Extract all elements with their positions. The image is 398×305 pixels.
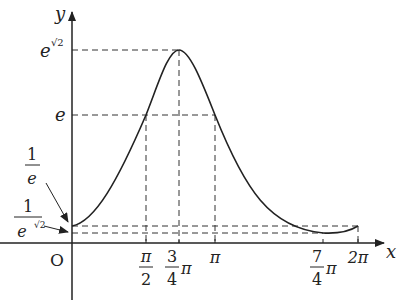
svg-text:4: 4 xyxy=(167,270,177,289)
y-tick-e: e xyxy=(55,104,66,125)
svg-text:π: π xyxy=(325,259,337,278)
svg-text:1: 1 xyxy=(23,197,33,216)
guide-lines xyxy=(72,50,358,243)
svg-text:√2: √2 xyxy=(34,220,45,230)
svg-text:4: 4 xyxy=(312,270,322,289)
function-graph: y x O e √2 e 1 e 1 e √2 π 2 3 4 π π 7 4 … xyxy=(0,0,398,305)
svg-text:7: 7 xyxy=(312,247,322,266)
y-tick-1-over-e: 1 e xyxy=(25,145,40,188)
arrow-1-over-e-sqrt2 xyxy=(44,226,68,232)
x-tick-7-4-pi: 7 4 π xyxy=(310,247,337,289)
x-tick-2pi: 2π xyxy=(347,248,369,267)
svg-text:π: π xyxy=(180,259,192,278)
x-tick-3-4-pi: 3 4 π xyxy=(165,247,192,289)
arrow-1-over-e xyxy=(46,183,68,222)
y-axis-label: y xyxy=(54,3,66,24)
svg-text:1: 1 xyxy=(27,145,37,164)
x-axis-label: x xyxy=(386,241,396,262)
svg-text:e: e xyxy=(40,40,51,61)
svg-text:e: e xyxy=(17,222,26,241)
svg-text:π: π xyxy=(140,247,152,266)
svg-text:√2: √2 xyxy=(51,37,64,48)
x-tick-pi: π xyxy=(209,248,221,267)
x-tick-pi-over-2: π 2 xyxy=(139,247,153,289)
origin-label: O xyxy=(50,250,64,270)
svg-text:e: e xyxy=(27,169,36,188)
svg-text:3: 3 xyxy=(167,247,177,266)
y-tick-e-sqrt2: e √2 xyxy=(40,37,64,61)
svg-text:2: 2 xyxy=(141,270,151,289)
y-tick-1-over-e-sqrt2: 1 e √2 xyxy=(14,197,45,241)
